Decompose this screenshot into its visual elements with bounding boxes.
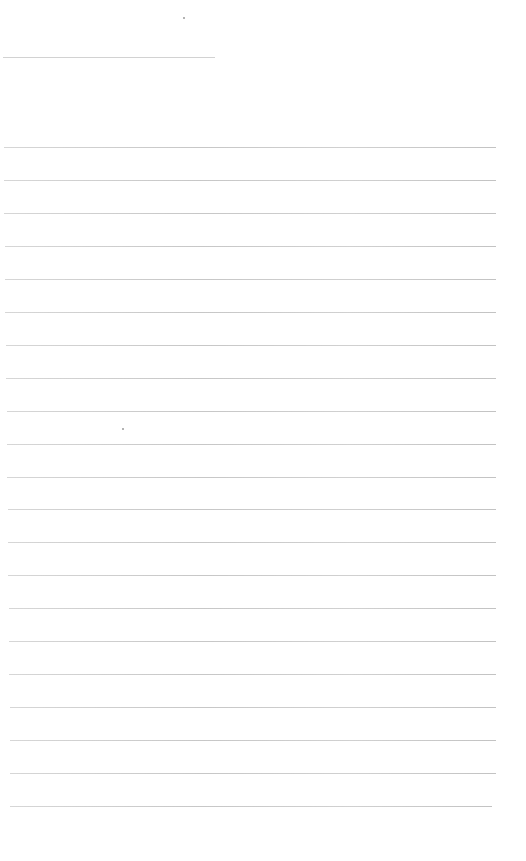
- text-line: [5, 246, 496, 247]
- text-line: [9, 608, 496, 609]
- text-line: [7, 411, 496, 412]
- text-line: [6, 345, 496, 346]
- text-line: [10, 773, 496, 774]
- top-mark: [183, 17, 185, 19]
- text-line: [7, 477, 496, 478]
- text-line: [5, 312, 496, 313]
- text-line: [10, 740, 496, 741]
- inline-mark: [122, 428, 124, 430]
- text-line: [4, 213, 496, 214]
- document-header-text: [3, 57, 215, 58]
- text-line: [8, 575, 496, 576]
- text-line: [5, 279, 496, 280]
- text-line: [4, 180, 496, 181]
- document-page: [0, 0, 526, 861]
- text-line: [9, 674, 496, 675]
- text-line: [4, 147, 496, 148]
- text-line: [10, 707, 496, 708]
- text-line: [9, 641, 496, 642]
- text-line: [6, 378, 496, 379]
- text-line: [10, 806, 492, 807]
- text-line: [8, 542, 496, 543]
- text-line: [7, 444, 496, 445]
- text-line: [8, 509, 496, 510]
